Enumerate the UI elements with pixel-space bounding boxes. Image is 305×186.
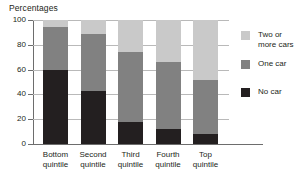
bar-column[interactable] <box>81 20 106 144</box>
bar-segment-no-car[interactable] <box>193 134 218 144</box>
bar-segment-one-car[interactable] <box>43 27 68 69</box>
bar-column[interactable] <box>156 20 181 144</box>
bar-segment-no-car[interactable] <box>156 129 181 144</box>
legend-label: Two ormore cars <box>258 30 305 49</box>
legend-item[interactable]: No car <box>241 87 305 105</box>
bar-segment-one-car[interactable] <box>156 62 181 129</box>
bar-segment-one-car[interactable] <box>118 52 143 121</box>
bar-segment-two-or-more-cars[interactable] <box>118 20 143 52</box>
bar-segment-no-car[interactable] <box>81 91 106 144</box>
y-axis-tick-label: 0 <box>0 140 26 148</box>
legend-swatch-icon <box>241 88 250 97</box>
y-axis-tick-label: 100 <box>0 16 26 24</box>
legend-swatch-icon <box>241 31 250 40</box>
bar-column[interactable] <box>118 20 143 144</box>
x-axis-line <box>33 144 263 145</box>
chart-container: Percentages 020406080100 BottomquintileS… <box>0 0 305 186</box>
legend-item[interactable]: One car <box>241 59 305 77</box>
bar-segment-two-or-more-cars[interactable] <box>156 20 181 62</box>
bar-segment-two-or-more-cars[interactable] <box>43 20 68 27</box>
bar-segment-one-car[interactable] <box>81 34 106 91</box>
y-axis-tick-label: 20 <box>0 115 26 123</box>
bar-segment-two-or-more-cars[interactable] <box>81 20 106 34</box>
legend-swatch-icon <box>241 60 250 69</box>
plot-area <box>33 20 229 144</box>
bar-column[interactable] <box>193 20 218 144</box>
legend-item[interactable]: Two ormore cars <box>241 30 305 49</box>
y-axis-tick-label: 60 <box>0 66 26 74</box>
x-axis-label: Topquintile <box>183 150 229 169</box>
bar-segment-one-car[interactable] <box>193 80 218 135</box>
bar-segment-no-car[interactable] <box>43 70 68 144</box>
bar-segment-no-car[interactable] <box>118 122 143 144</box>
chart-legend: Two ormore carsOne carNo car <box>241 30 305 115</box>
y-axis-tick-label: 40 <box>0 90 26 98</box>
legend-label: One car <box>258 59 305 69</box>
bar-segment-two-or-more-cars[interactable] <box>193 20 218 80</box>
y-axis-tick <box>28 144 33 145</box>
chart-title: Percentages <box>9 3 58 13</box>
y-axis-tick-label: 80 <box>0 41 26 49</box>
bar-column[interactable] <box>43 20 68 144</box>
legend-label: No car <box>258 87 305 97</box>
